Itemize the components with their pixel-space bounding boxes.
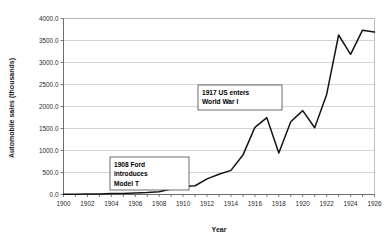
annotation-line: Model T xyxy=(114,180,139,187)
annotation-line: World War I xyxy=(202,98,238,105)
y-tick-label: 2000.0 xyxy=(39,103,59,110)
annotation-line: 1917 US enters xyxy=(202,89,250,96)
y-tick-label: 500.0 xyxy=(43,169,59,176)
x-tick-label: 1900 xyxy=(56,200,71,207)
annotation-model-t: 1908 FordintroducesModel T xyxy=(110,157,189,190)
annotation-line: 1908 Ford xyxy=(114,161,145,168)
x-tick-label: 1904 xyxy=(104,200,119,207)
x-tick-label: 1906 xyxy=(128,200,143,207)
x-tick-label: 1902 xyxy=(80,200,95,207)
y-tick-label: 3500.0 xyxy=(39,37,59,44)
x-tick-label: 1914 xyxy=(224,200,239,207)
x-tick-label: 1924 xyxy=(343,200,358,207)
x-tick-label: 1922 xyxy=(320,200,335,207)
y-axis-title: Automobile sales (thousands) xyxy=(8,58,16,158)
x-tick-label: 1926 xyxy=(367,200,382,207)
x-tick-label: 1918 xyxy=(272,200,287,207)
y-tick-label: 0.0 xyxy=(50,191,59,198)
x-tick-label: 1910 xyxy=(176,200,191,207)
annotation-world-war-one: 1917 US entersWorld War I xyxy=(198,85,282,110)
automobile-sales-chart: 0.0500.01000.01500.02000.02500.03000.035… xyxy=(0,0,392,240)
y-tick-label: 2500.0 xyxy=(39,81,59,88)
chart-canvas: 0.0500.01000.01500.02000.02500.03000.035… xyxy=(0,0,392,240)
x-axis-title: Year xyxy=(212,226,227,233)
x-tick-label: 1916 xyxy=(248,200,263,207)
x-tick-label: 1920 xyxy=(296,200,311,207)
y-tick-label: 1000.0 xyxy=(39,147,59,154)
y-tick-label: 4000.0 xyxy=(39,15,59,22)
x-tick-label: 1908 xyxy=(152,200,167,207)
y-tick-label: 3000.0 xyxy=(39,59,59,66)
x-tick-label: 1912 xyxy=(200,200,215,207)
y-tick-label: 1500.0 xyxy=(39,125,59,132)
annotation-line: introduces xyxy=(114,170,148,177)
